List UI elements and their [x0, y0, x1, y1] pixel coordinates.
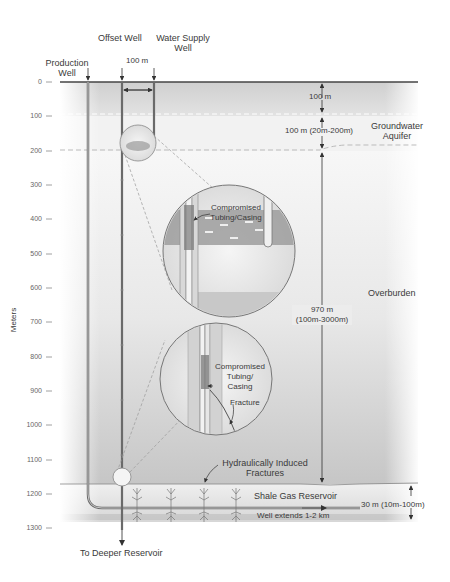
production-well-label-line2: Well	[40, 68, 94, 78]
tick-1200: 1200	[12, 490, 42, 497]
well-extends-label: Well extends 1-2 km	[257, 511, 329, 521]
aquifer-thickness: 100 m (20m-200m)	[285, 126, 353, 136]
tick-1300: 1300	[12, 524, 42, 531]
axis-label: Meters	[9, 308, 19, 332]
water-supply-well-label-line2: Well	[152, 43, 214, 53]
production-well-label-line1: Production	[40, 58, 94, 68]
overburden-name: Overburden	[368, 288, 416, 298]
overburden-thickness: 970 m (100m-3000m)	[292, 305, 352, 325]
hydraulic-fractures-line1: Hydraulically Induced	[215, 458, 315, 468]
lower-compromised-line3: Casing	[215, 382, 265, 392]
surface-layer	[60, 82, 418, 116]
tick-500: 500	[12, 250, 42, 257]
tick-1100: 1100	[12, 456, 42, 463]
lower-compromised-label: Compromised Tubing/ Casing	[215, 362, 265, 392]
hydraulic-fractures-line2: Fractures	[215, 468, 315, 478]
tick-0: 0	[12, 78, 42, 85]
fracture-label: Fracture	[230, 398, 260, 408]
tick-900: 900	[12, 387, 42, 394]
reservoir-name: Shale Gas Reservoir	[254, 491, 337, 501]
aquifer-name-line2: Aquifer	[362, 131, 432, 141]
tick-800: 800	[12, 353, 42, 360]
overburden-thickness-line1: 970 m	[292, 305, 352, 315]
deeper-reservoir-label: To Deeper Reservoir	[80, 548, 163, 558]
tick-1000: 1000	[12, 421, 42, 428]
tick-400: 400	[12, 215, 42, 222]
upper-compromised-line1: Compromised	[205, 203, 267, 213]
tick-200: 200	[12, 147, 42, 154]
tick-100: 100	[12, 112, 42, 119]
water-supply-well-label: Water Supply Well	[152, 33, 214, 53]
upper-compromised-line2: Tubing/Casing	[205, 213, 267, 223]
water-supply-well-label-line1: Water Supply	[152, 33, 214, 43]
reservoir-thickness: 30 m (10m-100m)	[361, 500, 425, 510]
depth-axis	[46, 82, 52, 528]
upper-compromised-label: Compromised Tubing/Casing	[205, 203, 267, 223]
well-spacing-label: 100 m	[126, 56, 148, 66]
reservoir-zoom-marker	[113, 468, 131, 486]
lower-compromised-line1: Compromised	[215, 362, 265, 372]
tick-300: 300	[12, 181, 42, 188]
production-well-label: Production Well	[40, 58, 94, 78]
tick-600: 600	[12, 284, 42, 291]
offset-well-label: Offset Well	[98, 33, 142, 43]
aquifer-name: Groundwater Aquifer	[362, 121, 432, 141]
top-layer-thickness: 100 m	[309, 92, 331, 102]
aquifer-name-line1: Groundwater	[362, 121, 432, 131]
overburden-thickness-line2: (100m-3000m)	[292, 315, 352, 325]
lower-compromised-line2: Tubing/	[215, 372, 265, 382]
hydraulic-fractures-label: Hydraulically Induced Fractures	[215, 458, 315, 478]
